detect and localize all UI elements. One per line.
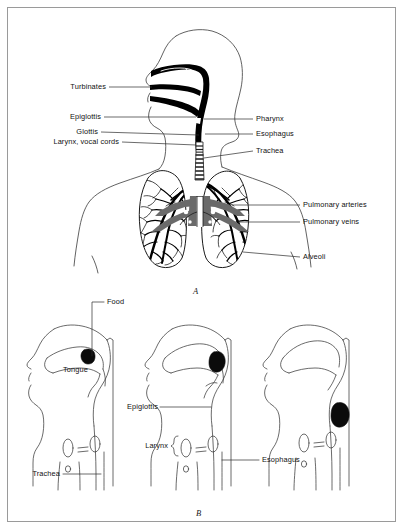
label-esophagus-b: Esophagus <box>262 456 300 464</box>
airway-fill <box>151 64 209 152</box>
food-bolus-2 <box>209 351 225 372</box>
larynx-box <box>196 142 203 152</box>
label-turbinates: Turbinates <box>10 83 106 91</box>
leader-food <box>92 302 104 356</box>
label-pharynx: Pharynx <box>256 115 284 123</box>
hard-palate <box>150 84 201 96</box>
figure-artwork <box>0 0 405 531</box>
food-bolus-1 <box>81 349 95 364</box>
panel-letter-a: A <box>193 286 198 296</box>
swallow-stage-3 <box>263 325 349 490</box>
soft-palate <box>150 96 200 117</box>
leader-glottis <box>101 132 199 135</box>
respiratory-system-figure: Turbinates Epiglottis Glottis Larynx, vo… <box>0 0 405 531</box>
tracheal-rings <box>195 155 204 179</box>
label-tongue: Tongue <box>63 366 88 374</box>
label-food: Food <box>107 298 124 306</box>
label-epiglottis-b: Epiglottis <box>100 403 158 411</box>
label-alveoli: Alveoli <box>303 253 325 261</box>
larynx-brace <box>171 436 178 456</box>
label-larynx-vocal-cords: Larynx, vocal cords <box>6 138 119 146</box>
label-glottis: Glottis <box>10 128 98 136</box>
panel-b-artwork <box>27 302 349 490</box>
leader-larynx <box>122 142 196 145</box>
panel-letter-b: B <box>196 508 201 518</box>
label-esophagus: Esophagus <box>256 130 294 138</box>
trachea <box>195 142 204 180</box>
label-trachea: Trachea <box>256 147 284 155</box>
label-pulmonary-arteries: Pulmonary arteries <box>303 201 367 209</box>
upper-airway <box>150 64 209 152</box>
label-trachea-b: Trachea <box>14 470 60 478</box>
label-larynx-b: Larynx <box>125 442 168 450</box>
leader-trachea <box>204 151 253 158</box>
food-bolus-3 <box>331 402 349 427</box>
label-epiglottis: Epiglottis <box>10 113 101 121</box>
label-pulmonary-veins: Pulmonary veins <box>303 218 359 226</box>
